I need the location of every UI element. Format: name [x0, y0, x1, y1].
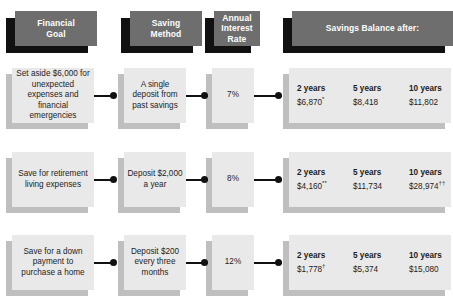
balance-value-row: $1,778† $5,374 $15,080: [297, 265, 443, 274]
rate-cell: 8%: [212, 152, 254, 207]
balance-value-2-years: $6,870*: [297, 98, 353, 107]
balance-header-row: 2 years 5 years 10 years: [297, 84, 443, 98]
connector-dot: [110, 259, 117, 266]
balance-value-2-years: $4,160**: [297, 182, 353, 191]
balance-cell: 2 years 5 years 10 years $4,160** $11,73…: [289, 152, 451, 207]
balance-value-5-years: $8,418: [353, 98, 409, 107]
rate-cell: 7%: [212, 68, 254, 123]
connector-dot: [110, 176, 117, 183]
connector-dot: [201, 92, 208, 99]
balance-col-5-years: 5 years: [353, 251, 409, 265]
goal-text: Save for a down payment to purchase a ho…: [15, 247, 91, 279]
balance-footnote-mark: ††: [439, 180, 446, 186]
balance-header-row: 2 years 5 years 10 years: [297, 168, 443, 182]
rate-text: 8%: [227, 174, 239, 185]
rate-text: 12%: [225, 257, 241, 268]
header-saving-method: Saving Method: [130, 11, 202, 46]
balance-value-2-years: $1,778†: [297, 265, 353, 274]
savings-flow-diagram: Financial Goal Saving Method Annual Inte…: [0, 0, 453, 306]
method-text: Deposit $200 every three months: [127, 247, 183, 279]
balance-col-5-years: 5 years: [353, 84, 409, 98]
balance-value-5-years: $5,374: [353, 265, 409, 274]
method-text: Deposit $2,000 a year: [127, 169, 183, 190]
connector-dot: [275, 176, 282, 183]
balance-value-10-years: $15,080: [409, 265, 443, 274]
method-cell: Deposit $2,000 a year: [124, 152, 186, 207]
connector-dot: [275, 259, 282, 266]
header-financial-goal-label: Financial Goal: [37, 18, 75, 39]
connector-dot: [110, 92, 117, 99]
header-saving-method-label: Saving Method: [151, 18, 182, 39]
method-cell: Deposit $200 every three months: [124, 235, 186, 290]
goal-cell: Save for a down payment to purchase a ho…: [12, 235, 94, 290]
balance-value-5-years: $11,734: [353, 182, 409, 191]
balance-col-2-years: 2 years: [297, 84, 353, 98]
header-annual-interest-rate-label: Annual Interest Rate: [221, 13, 253, 45]
header-savings-balance-label: Savings Balance after:: [326, 23, 419, 34]
goal-text: Save for retirement living expenses: [15, 169, 91, 190]
goal-text: Set aside $6,000 for unexpected expenses…: [15, 69, 91, 122]
rate-text: 7%: [227, 90, 239, 101]
method-cell: A single deposit from past savings: [124, 68, 186, 123]
balance-col-10-years: 10 years: [409, 251, 443, 265]
balance-header-row: 2 years 5 years 10 years: [297, 251, 443, 265]
balance-cell: 2 years 5 years 10 years $6,870* $8,418 …: [289, 68, 451, 123]
balance-col-10-years: 10 years: [409, 84, 443, 98]
balance-value-row: $4,160** $11,734 $28,974††: [297, 182, 443, 191]
goal-cell: Save for retirement living expenses: [12, 152, 94, 207]
header-financial-goal: Financial Goal: [15, 11, 97, 46]
balance-col-5-years: 5 years: [353, 168, 409, 182]
method-text: A single deposit from past savings: [127, 80, 183, 112]
connector-dot: [201, 259, 208, 266]
rate-cell: 12%: [212, 235, 254, 290]
goal-cell: Set aside $6,000 for unexpected expenses…: [12, 68, 94, 123]
connector-dot: [201, 176, 208, 183]
header-savings-balance-after: Savings Balance after:: [292, 11, 453, 46]
balance-footnote-mark: †: [322, 263, 325, 269]
balance-value-10-years: $28,974††: [409, 182, 445, 191]
balance-value-10-years: $11,802: [409, 98, 443, 107]
header-annual-interest-rate: Annual Interest Rate: [214, 11, 260, 46]
balance-footnote-mark: *: [322, 96, 324, 102]
balance-footnote-mark: **: [322, 180, 327, 186]
balance-cell: 2 years 5 years 10 years $1,778† $5,374 …: [289, 235, 451, 290]
connector-dot: [275, 92, 282, 99]
balance-value-row: $6,870* $8,418 $11,802: [297, 98, 443, 107]
